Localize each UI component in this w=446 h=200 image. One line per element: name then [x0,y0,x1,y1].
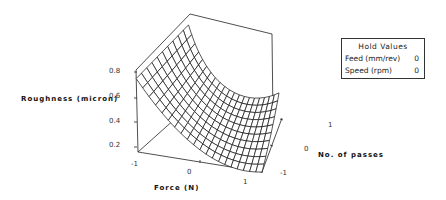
legend-speed-value: 0 [414,66,419,75]
z-axis-label: Roughness (micron) [21,95,118,103]
y-axis-label: No. of passes [318,151,384,159]
legend-feed-value: 0 [414,54,419,63]
legend-feed-label: Feed (mm/rev) [345,54,400,63]
legend-speed-label: Speed (rpm) [345,66,392,75]
legend-title: Hold Values [342,42,424,51]
x-tick-0: 0 [187,168,191,176]
surface-plot: 0.8 0.6 0.4 0.2 Roughness (micron) -1 0 … [0,0,446,200]
y-tick-1: 1 [328,121,332,129]
x-tick-1: 1 [243,178,247,186]
legend-row-feed: Feed (mm/rev) 0 [342,54,424,63]
y-tick-neg1: -1 [280,169,287,177]
z-tick-0.8: 0.8 [109,67,120,75]
x-tick-neg1: -1 [131,160,138,168]
z-tick-0.2: 0.2 [109,141,120,149]
y-tick-0: 0 [304,145,308,153]
z-tick-0.4: 0.4 [109,117,121,125]
hold-values-legend: Hold Values Feed (mm/rev) 0 Speed (rpm) … [341,38,425,79]
surface-mesh [136,25,279,172]
legend-row-speed: Speed (rpm) 0 [342,66,424,75]
x-axis-label: Force (N) [154,184,199,192]
